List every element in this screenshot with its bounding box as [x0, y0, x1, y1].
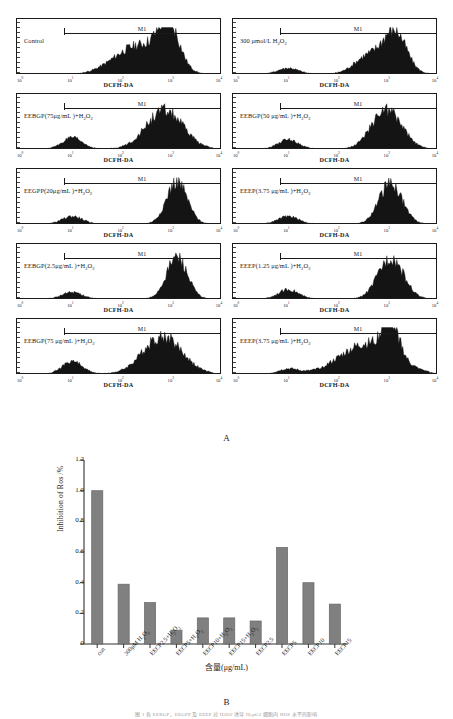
flow-x-axis: 100101102103104 [232, 299, 437, 307]
flow-plot-eebgp-50: M1EEBGP(50 μg/mL )+H2O2 [232, 93, 437, 149]
flow-x-axis: 100101102103104 [16, 299, 221, 307]
flow-x-axis: 100101102103104 [232, 224, 437, 232]
flow-x-tick: 102 [333, 74, 339, 85]
flow-x-axis: 100101102103104 [16, 374, 221, 382]
flow-marker-m1: M1 [64, 28, 220, 35]
flow-x-tick: 104 [432, 74, 438, 85]
flow-x-tick: 101 [283, 74, 289, 85]
panel-b-bar-chart: Inhibition of Ros /% 00.20.40.60.81.01.2… [0, 448, 453, 696]
figure-caption: 图 1 各 EEBGP、EEGPP 及 EEEP 对 H2O2 诱导 HepG2… [0, 710, 453, 717]
chart-bar [303, 583, 314, 644]
flow-x-tick: 102 [333, 299, 339, 310]
flow-x-tick: 103 [168, 74, 174, 85]
flow-panel-row: M1EEBGP(75 μg/mL )+H2O2100101102103104DC… [0, 318, 453, 389]
flow-marker-m1: M1 [280, 103, 436, 110]
flow-x-tick: 102 [117, 374, 123, 385]
flow-panel-eebgp-75-b: M1EEBGP(75 μg/mL )+H2O2100101102103104DC… [16, 318, 221, 389]
flow-x-tick: 104 [216, 374, 222, 385]
flow-x-tick: 100 [233, 374, 239, 385]
flow-x-tick: 103 [384, 149, 390, 160]
flow-x-tick: 102 [117, 149, 123, 160]
flow-x-tick: 101 [283, 299, 289, 310]
flow-x-tick: 104 [432, 299, 438, 310]
flow-x-tick: 103 [384, 299, 390, 310]
marker-bar [64, 333, 220, 334]
flow-x-tick: 100 [233, 224, 239, 235]
marker-label-m1: M1 [136, 175, 148, 183]
marker-bar [280, 108, 436, 109]
flow-panel-eebgp-75: M1EEBGP(75μg/mL )+H2O2100101102103104DCF… [16, 93, 221, 164]
flow-x-tick: 101 [67, 149, 73, 160]
marker-bar [280, 333, 436, 334]
panel-a-letter: A [0, 432, 453, 444]
flow-sample-label: Control [24, 38, 44, 44]
marker-bar [64, 183, 220, 184]
flow-x-tick: 103 [168, 149, 174, 160]
flow-panel-eeep-3.75-b: M1EEEP(3.75 μg/mL )+H2O2100101102103104D… [232, 318, 437, 389]
flow-panel-h2o2-300: M1300 μmol/L H2O2100101102103104DCFH-DA [232, 18, 437, 89]
flow-x-tick: 104 [432, 224, 438, 235]
flow-sample-label: EEBGP(50 μg/mL )+H2O2 [240, 113, 311, 122]
flow-marker-m1: M1 [280, 28, 436, 35]
flow-panel-row: M1EEGPP(20μg/mL )+H2O2100101102103104DCF… [0, 168, 453, 239]
flow-plot-control: M1Control [16, 18, 221, 74]
flow-x-tick: 104 [432, 374, 438, 385]
flow-x-tick: 102 [333, 149, 339, 160]
flow-x-tick: 101 [67, 74, 73, 85]
marker-bar [64, 33, 220, 34]
flow-sample-label: EEEP(3.75 μg/mL )+H2O2 [240, 338, 311, 347]
flow-x-tick: 100 [17, 299, 23, 310]
flow-plot-eeep-3.75-b: M1EEEP(3.75 μg/mL )+H2O2 [232, 318, 437, 374]
marker-label-m1: M1 [352, 250, 364, 258]
flow-sample-label: EEBGP(75μg/mL )+H2O2 [24, 113, 93, 122]
flow-panel-eeep-1.25: M1EEEP(1.25 μg/mL )+H2O2100101102103104D… [232, 243, 437, 314]
chart-bar [118, 584, 129, 644]
flow-panel-eeep-3.75-a: M1EEEP(3.75 μg/mL )+H2O2100101102103104D… [232, 168, 437, 239]
marker-bar [280, 258, 436, 259]
flow-x-tick: 100 [233, 299, 239, 310]
marker-label-m1: M1 [352, 100, 364, 108]
flow-x-tick: 101 [67, 224, 73, 235]
flow-x-tick: 102 [117, 74, 123, 85]
flow-sample-label: 300 μmol/L H2O2 [240, 38, 287, 47]
flow-x-tick: 102 [117, 299, 123, 310]
chart-plot-area: Inhibition of Ros /% 00.20.40.60.81.01.2… [0, 448, 453, 696]
flow-marker-m1: M1 [64, 253, 220, 260]
flow-x-tick: 103 [384, 224, 390, 235]
flow-x-tick: 103 [168, 374, 174, 385]
flow-x-tick: 100 [17, 374, 23, 385]
flow-x-tick: 100 [17, 149, 23, 160]
flow-x-tick: 101 [67, 299, 73, 310]
flow-marker-m1: M1 [280, 178, 436, 185]
flow-sample-label: EEEP(1.25 μg/mL )+H2O2 [240, 263, 311, 272]
marker-label-m1: M1 [136, 25, 148, 33]
flow-x-tick: 100 [17, 224, 23, 235]
flow-marker-m1: M1 [64, 103, 220, 110]
flow-x-axis: 100101102103104 [232, 74, 437, 82]
flow-sample-label: EEEP(3.75 μg/mL )+H2O2 [240, 188, 311, 197]
flow-x-axis: 100101102103104 [232, 149, 437, 157]
flow-x-axis: 100101102103104 [16, 74, 221, 82]
flow-x-tick: 103 [168, 299, 174, 310]
flow-sample-label: EEBGP(2.5μg/mL )+H2O2 [24, 263, 95, 272]
flow-plot-eegpp-20: M1EEGPP(20μg/mL )+H2O2 [16, 168, 221, 224]
flow-plot-eebgp-2.5: M1EEBGP(2.5μg/mL )+H2O2 [16, 243, 221, 299]
marker-label-m1: M1 [352, 25, 364, 33]
flow-sample-label: EEGPP(20μg/mL )+H2O2 [24, 188, 92, 197]
flow-panel-control: M1Control100101102103104DCFH-DA [16, 18, 221, 89]
flow-x-tick: 101 [283, 149, 289, 160]
flow-x-tick: 100 [233, 74, 239, 85]
flow-x-tick: 104 [432, 149, 438, 160]
flow-x-tick: 102 [333, 374, 339, 385]
figure-page: M1Control100101102103104DCFH-DAM1300 μmo… [0, 0, 453, 719]
marker-bar [280, 33, 436, 34]
flow-marker-m1: M1 [64, 178, 220, 185]
marker-bar [64, 108, 220, 109]
flow-x-tick: 102 [333, 224, 339, 235]
flow-x-tick: 101 [67, 374, 73, 385]
flow-panel-row: M1EEBGP(75μg/mL )+H2O2100101102103104DCF… [0, 93, 453, 164]
marker-bar [64, 258, 220, 259]
chart-bar [329, 604, 340, 644]
flow-x-tick: 103 [168, 224, 174, 235]
flow-panel-row: M1EEBGP(2.5μg/mL )+H2O2100101102103104DC… [0, 243, 453, 314]
